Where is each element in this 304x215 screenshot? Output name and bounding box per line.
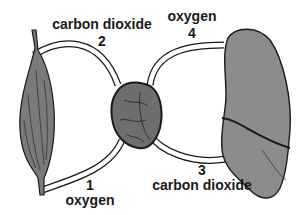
label-number: 3 <box>146 163 258 177</box>
label-text: oxygen <box>62 193 118 207</box>
label-number: 4 <box>164 26 220 40</box>
label-text: oxygen <box>164 9 220 23</box>
label-text: carbon dioxide <box>146 178 258 192</box>
label-carbon-dioxide-2: carbon dioxide 2 <box>46 17 158 48</box>
label-number: 1 <box>62 178 118 192</box>
label-oxygen-4: oxygen 4 <box>164 9 220 40</box>
circulation-diagram: carbon dioxide 2 oxygen 4 1 oxygen 3 car… <box>0 0 304 215</box>
label-text: carbon dioxide <box>46 17 158 31</box>
muscle-icon <box>20 30 55 195</box>
vessel-4 <box>150 45 224 85</box>
heart-icon <box>111 83 161 149</box>
label-oxygen-1: 1 oxygen <box>62 178 118 207</box>
label-number: 2 <box>46 34 158 48</box>
label-carbon-dioxide-3: 3 carbon dioxide <box>146 163 258 192</box>
vessel-3 <box>150 135 226 160</box>
